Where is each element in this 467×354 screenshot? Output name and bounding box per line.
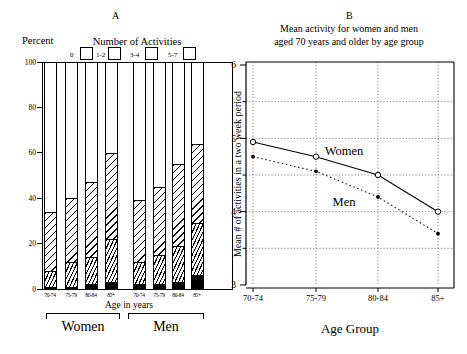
panel-b-plot: 345670-7475-7980-8485+WomenMen — [0, 0, 467, 354]
x-tick-label-85+: 85+ — [431, 293, 445, 303]
data-point-women-85+ — [435, 209, 440, 214]
y-tick-label-3: 3 — [231, 280, 236, 290]
panel-b-x-axis-title: Age Group — [300, 321, 400, 337]
data-point-men-75-79 — [314, 169, 318, 173]
x-tick-label-70-74: 70-74 — [243, 293, 264, 303]
data-point-men-85+ — [436, 232, 440, 236]
data-point-women-70-74 — [250, 139, 255, 144]
data-point-women-75-79 — [313, 154, 318, 159]
x-tick-label-80-84: 80-84 — [368, 293, 389, 303]
data-point-women-80-84 — [375, 172, 380, 177]
x-tick-label-75-79: 75-79 — [306, 293, 326, 303]
series-label-women: Women — [325, 144, 364, 158]
series-label-men: Men — [333, 195, 357, 209]
data-point-men-80-84 — [376, 195, 380, 199]
data-point-men-70-74 — [251, 155, 255, 159]
y-tick-label-6: 6 — [231, 60, 236, 70]
figure: A Percent Number of Activities 01-23-45-… — [0, 0, 467, 354]
y-tick-label-4: 4 — [231, 207, 236, 217]
y-tick-label-5: 5 — [231, 134, 236, 144]
